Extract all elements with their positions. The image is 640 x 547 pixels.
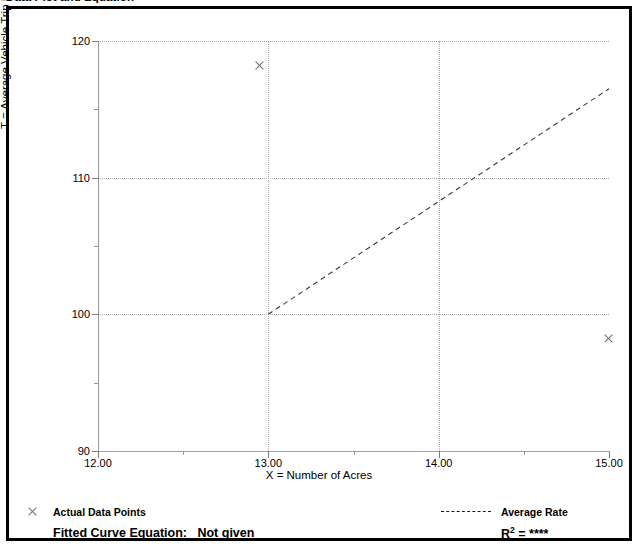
- fitted-curve-equation-value: Not given: [197, 526, 254, 540]
- y-axis-title: T = Average Vehicle Trip Ends: [0, 0, 11, 129]
- page-title: Data Plot and Equation: [6, 0, 134, 3]
- fitted-curve-equation-label: Fitted Curve Equation:: [53, 526, 187, 540]
- legend-label-actual-data-points: Actual Data Points: [53, 506, 146, 518]
- average-rate-trendline: [98, 41, 609, 451]
- x-tick-label-12: 12.00: [68, 457, 128, 469]
- r-squared-prefix: R: [501, 527, 510, 541]
- legend: Actual Data Points Average Rate Fitted C…: [9, 498, 629, 544]
- x-tick-minor-12-5: [183, 451, 184, 455]
- fitted-curve-equation: Fitted Curve Equation: Not given: [53, 526, 254, 540]
- x-tick-label-13: 13.00: [238, 457, 298, 469]
- plot-region: [98, 41, 609, 451]
- x-tick-label-15: 15.00: [579, 457, 639, 469]
- dashed-line-icon: [441, 511, 491, 512]
- x-marker-icon: [27, 506, 38, 517]
- legend-label-average-rate: Average Rate: [501, 506, 568, 518]
- data-point-marker[interactable]: [254, 60, 265, 71]
- x-tick-minor-14-5: [524, 451, 525, 455]
- chart-frame: T = Average Vehicle Trip Ends: [6, 6, 632, 541]
- y-tick-label-120: 120: [52, 35, 90, 47]
- r-squared-result: = ****: [518, 527, 548, 541]
- x-axis-title: X = Number of Acres: [9, 469, 629, 481]
- chart-area: T = Average Vehicle Trip Ends: [9, 9, 629, 498]
- x-tick-minor-13-5: [354, 451, 355, 455]
- r-squared-value: R2 = ****: [501, 525, 548, 541]
- data-point-marker[interactable]: [603, 333, 614, 344]
- y-tick-label-90: 90: [52, 445, 90, 457]
- r-squared-exponent: 2: [510, 525, 515, 535]
- x-tick-label-14: 14.00: [409, 457, 469, 469]
- y-tick-label-100: 100: [52, 308, 90, 320]
- y-tick-label-110: 110: [52, 172, 90, 184]
